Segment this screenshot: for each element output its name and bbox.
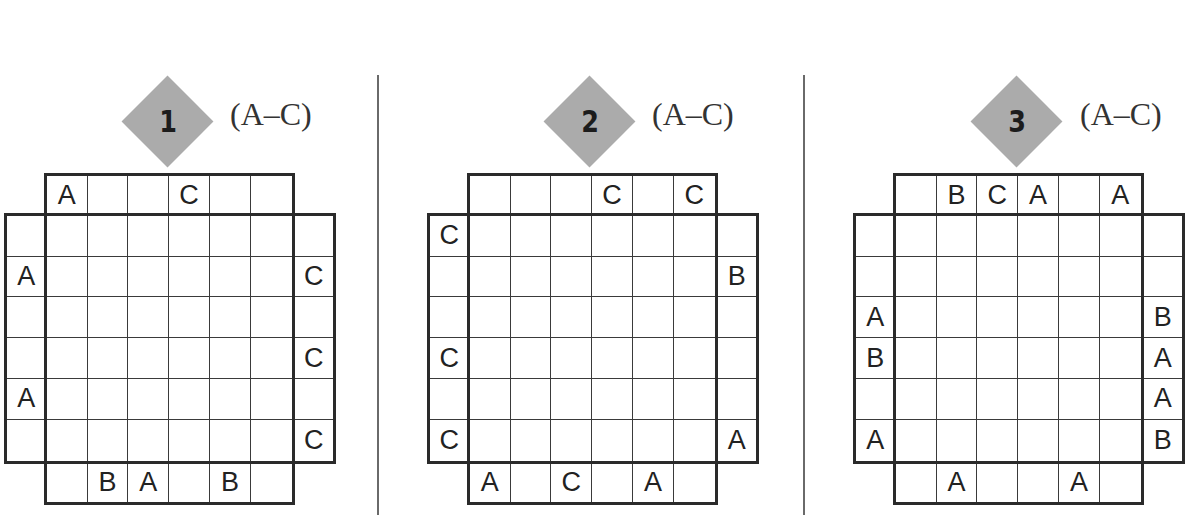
grid-cell[interactable] <box>88 379 129 420</box>
grid-cell[interactable] <box>88 297 129 338</box>
grid-cell[interactable] <box>977 257 1018 298</box>
grid-cell[interactable] <box>128 216 169 257</box>
grid-cell[interactable] <box>47 420 88 461</box>
grid-cell[interactable] <box>169 379 210 420</box>
grid-cell[interactable] <box>1100 216 1141 257</box>
grid-cell[interactable] <box>1100 338 1141 379</box>
grid-cell[interactable] <box>633 379 674 420</box>
grid-cell[interactable] <box>128 420 169 461</box>
grid-cell[interactable] <box>674 420 715 461</box>
grid-cell[interactable] <box>470 257 511 298</box>
grid-cell[interactable] <box>1100 420 1141 461</box>
grid-cell[interactable] <box>511 420 552 461</box>
grid-cell[interactable] <box>551 297 592 338</box>
grid-cell[interactable] <box>674 338 715 379</box>
grid-cell[interactable] <box>1059 297 1100 338</box>
grid-cell[interactable] <box>47 338 88 379</box>
grid-cell[interactable] <box>633 420 674 461</box>
grid-cell[interactable] <box>674 257 715 298</box>
grid-cell[interactable] <box>896 379 937 420</box>
grid-cell[interactable] <box>1018 420 1059 461</box>
grid-cell[interactable] <box>128 297 169 338</box>
grid-cell[interactable] <box>977 216 1018 257</box>
grid-cell[interactable] <box>169 420 210 461</box>
grid-cell[interactable] <box>128 379 169 420</box>
grid-cell[interactable] <box>937 297 978 338</box>
grid-cell[interactable] <box>633 338 674 379</box>
grid-cell[interactable] <box>896 338 937 379</box>
grid-cell[interactable] <box>470 297 511 338</box>
grid-cell[interactable] <box>210 379 251 420</box>
grid-cell[interactable] <box>896 420 937 461</box>
grid-cell[interactable] <box>1100 257 1141 298</box>
grid-cell[interactable] <box>169 216 210 257</box>
grid-cell[interactable] <box>977 297 1018 338</box>
grid-cell[interactable] <box>251 338 292 379</box>
grid-cell[interactable] <box>1059 257 1100 298</box>
grid-cell[interactable] <box>977 379 1018 420</box>
grid-cell[interactable] <box>470 216 511 257</box>
grid-cell[interactable] <box>470 379 511 420</box>
grid-cell[interactable] <box>896 216 937 257</box>
grid-cell[interactable] <box>511 216 552 257</box>
grid-cell[interactable] <box>128 257 169 298</box>
grid-cell[interactable] <box>251 420 292 461</box>
grid-cell[interactable] <box>88 257 129 298</box>
grid-cell[interactable] <box>1018 216 1059 257</box>
grid-cell[interactable] <box>47 257 88 298</box>
grid-cell[interactable] <box>88 216 129 257</box>
grid-cell[interactable] <box>937 216 978 257</box>
grid-cell[interactable] <box>551 420 592 461</box>
grid-cell[interactable] <box>937 379 978 420</box>
grid-cell[interactable] <box>674 216 715 257</box>
grid-cell[interactable] <box>1059 379 1100 420</box>
grid-cell[interactable] <box>592 379 633 420</box>
grid-cell[interactable] <box>551 216 592 257</box>
grid-cell[interactable] <box>633 257 674 298</box>
grid-cell[interactable] <box>169 338 210 379</box>
grid-cell[interactable] <box>1100 379 1141 420</box>
grid-cell[interactable] <box>210 257 251 298</box>
grid-cell[interactable] <box>470 338 511 379</box>
grid-cell[interactable] <box>896 257 937 298</box>
grid-cell[interactable] <box>169 257 210 298</box>
grid-cell[interactable] <box>511 257 552 298</box>
grid-cell[interactable] <box>1100 297 1141 338</box>
grid-cell[interactable] <box>592 420 633 461</box>
grid-cell[interactable] <box>47 216 88 257</box>
grid-cell[interactable] <box>937 338 978 379</box>
grid-cell[interactable] <box>674 379 715 420</box>
grid-cell[interactable] <box>511 297 552 338</box>
grid-cell[interactable] <box>592 257 633 298</box>
grid-cell[interactable] <box>470 420 511 461</box>
grid-cell[interactable] <box>937 257 978 298</box>
grid-cell[interactable] <box>977 338 1018 379</box>
grid-cell[interactable] <box>633 297 674 338</box>
grid-cell[interactable] <box>1018 257 1059 298</box>
grid-cell[interactable] <box>1059 338 1100 379</box>
grid-cell[interactable] <box>210 420 251 461</box>
grid-cell[interactable] <box>47 297 88 338</box>
grid-cell[interactable] <box>551 379 592 420</box>
grid-cell[interactable] <box>592 297 633 338</box>
grid-cell[interactable] <box>1018 379 1059 420</box>
grid-cell[interactable] <box>551 257 592 298</box>
grid-cell[interactable] <box>88 420 129 461</box>
grid-cell[interactable] <box>128 338 169 379</box>
grid-cell[interactable] <box>551 338 592 379</box>
grid-cell[interactable] <box>251 297 292 338</box>
grid-cell[interactable] <box>592 338 633 379</box>
grid-cell[interactable] <box>511 379 552 420</box>
grid-cell[interactable] <box>937 420 978 461</box>
grid-cell[interactable] <box>210 338 251 379</box>
grid-cell[interactable] <box>210 297 251 338</box>
grid-cell[interactable] <box>1059 420 1100 461</box>
grid-cell[interactable] <box>592 216 633 257</box>
grid-cell[interactable] <box>47 379 88 420</box>
grid-cell[interactable] <box>1059 216 1100 257</box>
grid-cell[interactable] <box>88 338 129 379</box>
grid-cell[interactable] <box>210 216 251 257</box>
grid-cell[interactable] <box>251 216 292 257</box>
grid-cell[interactable] <box>251 257 292 298</box>
grid-cell[interactable] <box>251 379 292 420</box>
